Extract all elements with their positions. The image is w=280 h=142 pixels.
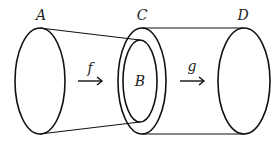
- function-composition-diagram: A C D B f g: [0, 0, 280, 142]
- set-a-label: A: [34, 7, 46, 23]
- set-d-ellipse: [218, 28, 270, 134]
- set-c-label: C: [137, 7, 148, 23]
- map-g-arrow-icon: [180, 77, 204, 85]
- set-b-label: B: [134, 73, 145, 89]
- map-f-label: f: [86, 60, 95, 76]
- set-d-label: D: [236, 7, 248, 23]
- map-g-label: g: [188, 58, 197, 74]
- set-a-ellipse: [15, 28, 65, 134]
- map-f-arrow-icon: [78, 77, 102, 85]
